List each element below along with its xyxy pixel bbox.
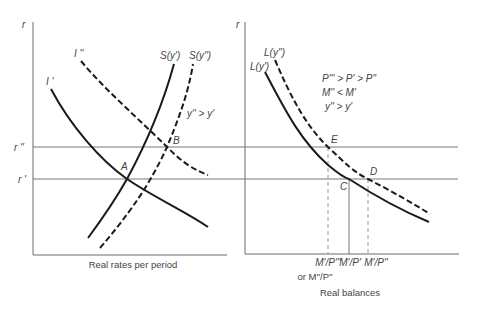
is-lm-diagram: r r '' r ' I ' I '' S(y') S(y'') y'' > y… xyxy=(0,0,477,309)
right-y-axis-label: r xyxy=(236,19,240,30)
x-tick-m-p-double: M'/P'' xyxy=(364,257,389,268)
saving-curve-y-prime xyxy=(88,64,174,238)
investment-label-i-double-prime: I '' xyxy=(74,48,84,59)
point-e-label: E xyxy=(331,134,338,145)
price-relation-annotation: P''' > P' > P'' xyxy=(322,73,377,84)
x-tick-m-p-prime: M'/P' xyxy=(339,257,362,268)
r-double-prime-label: r '' xyxy=(14,142,25,153)
right-chart: r L(y') L(y'') P''' > P' > P'' M'' < M' … xyxy=(236,19,459,298)
point-d-label: D xyxy=(370,166,377,177)
x-tick-m-double-p-double: or M''/P'' xyxy=(297,271,332,282)
saving-curve-y-double-prime xyxy=(100,64,193,248)
point-b-label: B xyxy=(173,135,180,146)
income-annotation-left: y'' > y' xyxy=(186,108,215,119)
point-a-label: A xyxy=(120,161,128,172)
saving-label-y-double-prime: S(y'') xyxy=(189,50,211,61)
x-tick-m-p-triple: M'/P''' xyxy=(315,257,342,268)
saving-label-y-prime: S(y') xyxy=(160,50,180,61)
money-relation-annotation: M'' < M' xyxy=(322,87,357,98)
point-c-label: C xyxy=(340,181,348,192)
income-relation-annotation: y'' > y' xyxy=(324,101,353,112)
r-prime-label: r ' xyxy=(18,174,27,185)
liquidity-label-y-prime: L(y') xyxy=(250,61,269,72)
liquidity-label-y-double-prime: L(y'') xyxy=(264,47,285,58)
left-x-axis-label: Real rates per period xyxy=(89,259,178,270)
investment-label-i-prime: I ' xyxy=(46,76,55,87)
left-chart: r r '' r ' I ' I '' S(y') S(y'') y'' > y… xyxy=(14,19,458,270)
right-x-axis-label: Real balances xyxy=(320,287,380,298)
left-y-axis-label: r xyxy=(22,19,26,30)
